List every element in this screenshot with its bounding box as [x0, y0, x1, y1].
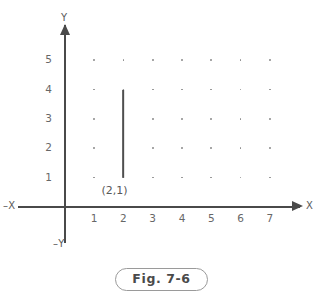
y-tick-label: 3 — [38, 112, 52, 124]
lattice-dot — [269, 177, 271, 179]
axis-label-positive-x: X — [306, 200, 313, 211]
y-tick-label: 2 — [38, 141, 52, 153]
figure-container: –X X Y –Y 1234567 12345 (2,1) Fig. 7-6 — [0, 0, 323, 303]
lattice-dot — [181, 89, 183, 91]
lattice-dot — [269, 118, 271, 120]
lattice-dot — [210, 89, 212, 91]
figure-caption: Fig. 7-6 — [0, 268, 323, 291]
lattice-dot — [93, 147, 95, 149]
lattice-dot — [240, 118, 242, 120]
x-tick-label: 2 — [115, 212, 131, 224]
axis-label-negative-x: –X — [3, 200, 15, 211]
y-tick-label: 1 — [38, 171, 52, 183]
lattice-dot — [152, 147, 154, 149]
axis-label-negative-y: –Y — [53, 238, 65, 249]
x-axis-arrow-icon — [292, 201, 303, 211]
lattice-dot — [269, 147, 271, 149]
point-coordinate-label: (2,1) — [101, 184, 127, 197]
lattice-dot — [210, 118, 212, 120]
x-axis-line — [18, 206, 300, 208]
lattice-dot — [152, 118, 154, 120]
x-tick-label: 3 — [145, 212, 161, 224]
lattice-dot — [93, 89, 95, 91]
lattice-dot — [269, 59, 271, 61]
lattice-dot — [123, 59, 125, 61]
lattice-dot — [269, 89, 271, 91]
x-tick-label: 1 — [86, 212, 102, 224]
lattice-dot — [93, 118, 95, 120]
lattice-dot — [210, 147, 212, 149]
x-tick-label: 5 — [203, 212, 219, 224]
figure-caption-pill: Fig. 7-6 — [115, 268, 207, 291]
lattice-dot — [240, 147, 242, 149]
lattice-dot — [93, 59, 95, 61]
lattice-dot — [181, 118, 183, 120]
lattice-dot — [240, 89, 242, 91]
lattice-dot — [181, 147, 183, 149]
lattice-dot — [93, 177, 95, 179]
lattice-dot — [210, 59, 212, 61]
y-tick-label: 5 — [38, 53, 52, 65]
lattice-dot — [152, 89, 154, 91]
plotted-segment — [123, 90, 125, 178]
lattice-dot — [240, 177, 242, 179]
lattice-dot — [152, 59, 154, 61]
lattice-dot — [181, 177, 183, 179]
x-tick-label: 4 — [174, 212, 190, 224]
lattice-dot — [210, 177, 212, 179]
x-tick-label: 7 — [262, 212, 278, 224]
axis-label-positive-y: Y — [61, 12, 67, 23]
y-axis-arrow-icon — [60, 24, 70, 35]
y-tick-label: 4 — [38, 83, 52, 95]
lattice-dot — [240, 59, 242, 61]
coordinate-plot: –X X Y –Y 1234567 12345 (2,1) — [0, 0, 323, 303]
x-tick-label: 6 — [233, 212, 249, 224]
lattice-dot — [181, 59, 183, 61]
lattice-dot — [152, 177, 154, 179]
y-axis-line — [64, 25, 66, 243]
